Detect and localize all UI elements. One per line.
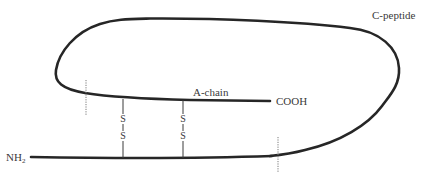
nh2-subscript: 2 (22, 157, 26, 165)
sulfur-atom-1a: S (119, 114, 127, 124)
sulfur-atom-2a: S (179, 114, 187, 124)
sulfur-atom-1b: S (119, 131, 127, 141)
cooh-terminus-label: COOH (276, 95, 307, 107)
a-chain-label: A-chain (193, 86, 228, 98)
nh2-terminus-label: NH2 (6, 151, 25, 167)
proinsulin-diagram: C-peptide A-chain COOH NH2 S S S S (0, 0, 438, 176)
b-chain (31, 156, 272, 158)
sulfur-atom-2b: S (179, 131, 187, 141)
c-peptide-label: C-peptide (372, 9, 415, 21)
nh2-main: NH (6, 151, 22, 163)
